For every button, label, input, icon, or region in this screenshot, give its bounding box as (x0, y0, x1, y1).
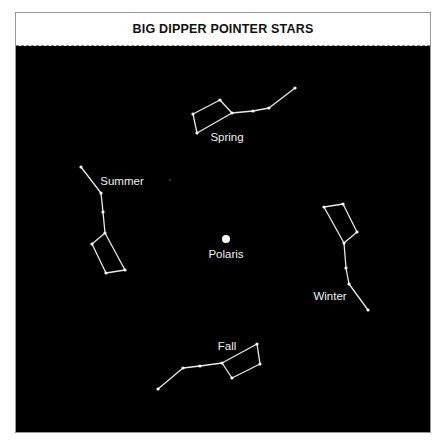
star-icon (198, 364, 201, 367)
star-icon (355, 230, 358, 233)
constellation-summer: Summer (79, 165, 143, 274)
star-icon (101, 210, 104, 213)
season-label-fall: Fall (218, 340, 237, 352)
constellation-winter: Winter (313, 202, 369, 311)
star-icon (195, 131, 198, 134)
star-icon (251, 109, 254, 112)
star-icon (218, 98, 221, 101)
star-icon (99, 191, 102, 194)
star-icon (344, 266, 347, 269)
season-label-spring: Spring (210, 131, 243, 143)
star-icon (191, 112, 194, 115)
star-icon (90, 242, 93, 245)
star-icon (341, 202, 344, 205)
star-icon (255, 342, 258, 345)
star-icon (366, 308, 369, 311)
season-label-summer: Summer (100, 175, 144, 187)
star-icon (181, 366, 184, 369)
star-icon (104, 271, 107, 274)
polaris-star-icon (222, 235, 230, 243)
star-icon (123, 268, 126, 271)
star-icon (258, 362, 261, 365)
star-icon (103, 231, 106, 234)
faint-star-icon (169, 179, 171, 181)
star-icon (230, 111, 233, 114)
star-icon (156, 387, 159, 390)
constellation-spring: Spring (191, 86, 296, 143)
constellation-fall: Fall (156, 340, 261, 391)
star-icon (220, 361, 223, 364)
star-icon (79, 165, 82, 168)
polaris-label: Polaris (208, 248, 243, 260)
star-icon (230, 376, 233, 379)
dipper-lines (193, 88, 295, 133)
season-label-winter: Winter (313, 290, 346, 302)
sky-map: SpringSummerWinterFall Polaris (0, 0, 445, 448)
star-icon (267, 106, 270, 109)
dipper-lines (158, 344, 260, 389)
star-icon (293, 86, 296, 89)
star-icon (322, 205, 325, 208)
star-icon (342, 241, 345, 244)
star-icon (347, 282, 350, 285)
